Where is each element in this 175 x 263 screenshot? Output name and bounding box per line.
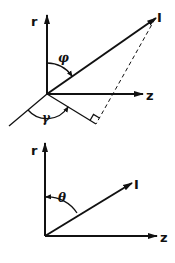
bottom-r-label: r [31, 143, 38, 158]
bottom-diagram: r I z θ [31, 143, 168, 245]
figure-canvas: r I z φ γ r I z θ [0, 0, 175, 263]
theta-label: θ [58, 191, 66, 205]
top-dashed-perpendicular [96, 19, 155, 124]
bottom-z-label: z [160, 230, 168, 245]
top-z-label: z [146, 88, 154, 103]
top-i-label: I [157, 10, 162, 25]
gamma-label: γ [42, 111, 51, 125]
bottom-i-label: I [134, 177, 139, 192]
top-diagram: r I z φ γ [9, 10, 162, 126]
top-projection-line [47, 94, 96, 124]
phi-label: φ [58, 51, 69, 65]
top-r-label: r [31, 14, 38, 29]
